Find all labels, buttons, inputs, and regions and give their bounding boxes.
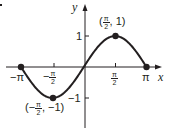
point-pi — [143, 64, 149, 70]
tick-label-y-1: 1 — [76, 31, 82, 42]
tick-label-neg-pi: −π — [10, 72, 24, 83]
tick-label-y-neg1: −1 — [68, 93, 81, 104]
annotation-min-point: (−π2, −1) — [25, 101, 64, 116]
tick-label-pi: π — [142, 72, 150, 83]
annotation-max-point: (π2, 1) — [99, 15, 125, 30]
y-axis-label: y — [72, 1, 77, 13]
tick-label-pi-half: π2 — [111, 71, 118, 86]
stray-mark — [0, 4, 2, 6]
x-axis-label: x — [158, 71, 163, 83]
point-max — [112, 33, 118, 39]
fraction: π2 — [49, 70, 56, 85]
fraction: π2 — [111, 71, 118, 86]
fraction: π2 — [35, 101, 42, 116]
x-axis-arrow-icon — [155, 65, 162, 70]
point-neg-pi — [18, 64, 24, 70]
tick-label-neg-pi-half: −π2 — [43, 70, 56, 85]
y-axis-arrow-icon — [83, 4, 88, 11]
fraction: π2 — [103, 15, 110, 30]
